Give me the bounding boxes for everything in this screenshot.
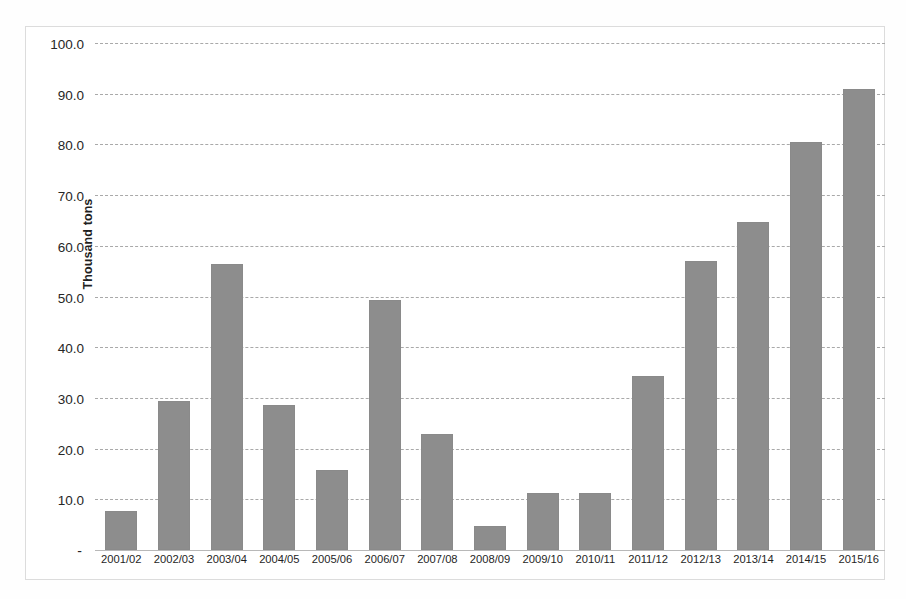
x-axis-tick-label: 2006/07 bbox=[358, 553, 411, 565]
bar bbox=[316, 470, 348, 550]
y-axis-tick-label: 70.0 bbox=[58, 189, 84, 204]
bar-slot bbox=[306, 43, 359, 550]
y-axis-tick-label: 10.0 bbox=[58, 493, 84, 508]
bar-slot bbox=[727, 43, 780, 550]
y-axis-tick-label: 90.0 bbox=[58, 87, 84, 102]
bar bbox=[632, 376, 664, 550]
bar-slot bbox=[411, 43, 464, 550]
y-axis-tick-label: 50.0 bbox=[58, 290, 84, 305]
bar-slot bbox=[200, 43, 253, 550]
bar bbox=[737, 222, 769, 550]
bar bbox=[369, 300, 401, 550]
x-axis-tick-label: 2003/04 bbox=[200, 553, 253, 565]
y-axis-tick-label: 40.0 bbox=[58, 341, 84, 356]
bar-slot bbox=[95, 43, 148, 550]
y-axis-tick-label: 100.0 bbox=[50, 37, 84, 52]
bar-slot bbox=[148, 43, 201, 550]
bar-slot bbox=[253, 43, 306, 550]
y-axis-tick-label: - bbox=[77, 543, 82, 559]
x-axis-tick-label: 2014/15 bbox=[780, 553, 833, 565]
cut-off-caption-remnant bbox=[0, 0, 906, 14]
bar bbox=[158, 401, 190, 550]
bar-slot bbox=[569, 43, 622, 550]
bar-slot bbox=[780, 43, 833, 550]
x-axis-tick-labels: 2001/022002/032003/042004/052005/062006/… bbox=[95, 553, 885, 565]
x-axis-tick-label: 2008/09 bbox=[464, 553, 517, 565]
bar bbox=[211, 264, 243, 550]
bar-slot bbox=[674, 43, 727, 550]
bar-series bbox=[95, 43, 885, 550]
x-axis-tick-label: 2004/05 bbox=[253, 553, 306, 565]
x-axis-tick-label: 2013/14 bbox=[727, 553, 780, 565]
bar bbox=[263, 405, 295, 550]
x-axis-tick-label: 2001/02 bbox=[95, 553, 148, 565]
bar bbox=[474, 526, 506, 550]
bar bbox=[105, 511, 137, 550]
x-axis-tick-label: 2011/12 bbox=[622, 553, 675, 565]
y-axis-tick-label: 80.0 bbox=[58, 138, 84, 153]
axis-baseline: - bbox=[95, 550, 885, 551]
x-axis-tick-label: 2010/11 bbox=[569, 553, 622, 565]
bar bbox=[579, 493, 611, 550]
bar bbox=[843, 89, 875, 550]
bar-slot bbox=[358, 43, 411, 550]
x-axis-tick-label: 2005/06 bbox=[306, 553, 359, 565]
bar bbox=[421, 434, 453, 550]
bar-slot bbox=[622, 43, 675, 550]
bar bbox=[790, 142, 822, 550]
x-axis-tick-label: 2012/13 bbox=[674, 553, 727, 565]
bar bbox=[527, 493, 559, 550]
x-axis-tick-label: 2002/03 bbox=[148, 553, 201, 565]
x-axis-tick-label: 2015/16 bbox=[832, 553, 885, 565]
x-axis-tick-label: 2007/08 bbox=[411, 553, 464, 565]
bar-slot bbox=[464, 43, 517, 550]
bar bbox=[685, 261, 717, 550]
y-axis-tick-label: 20.0 bbox=[58, 442, 84, 457]
y-axis-tick-label: 30.0 bbox=[58, 391, 84, 406]
y-axis-tick-label: 60.0 bbox=[58, 239, 84, 254]
plot-area: 100.090.080.070.060.050.040.030.020.010.… bbox=[95, 43, 885, 550]
bar-slot bbox=[832, 43, 885, 550]
x-axis-tick-label: 2009/10 bbox=[516, 553, 569, 565]
bar-slot bbox=[516, 43, 569, 550]
